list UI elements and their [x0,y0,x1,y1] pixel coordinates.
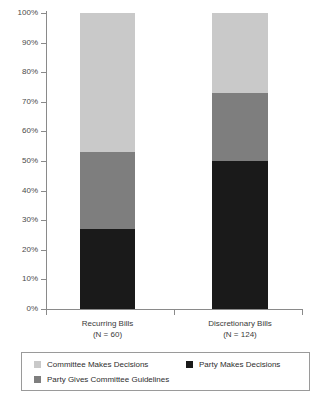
x-axis-label-name: Recurring Bills [82,319,134,328]
y-axis-tick-label: 10% [22,275,38,283]
x-axis-label-sample-size: (N = 60) [48,329,168,340]
legend-label: Party Gives Committee Guidelines [47,375,169,384]
y-axis-tick-label: 90% [22,39,38,47]
bar-segment [212,13,268,93]
bar-segment [212,93,268,161]
x-axis-label: Recurring Bills(N = 60) [48,318,168,340]
bar-segment [80,13,135,152]
y-axis-tick-label: 70% [22,98,38,106]
y-axis-tick-label: 50% [22,157,38,165]
stacked-bar-chart: 0%10%20%30%40%50%60%70%80%90%100% Recurr… [0,0,317,394]
x-axis-label: Discretionary Bills(N = 124) [180,318,300,340]
x-axis-tick [302,310,303,315]
bar-segment [80,152,135,229]
legend-swatch-icon [186,361,193,368]
legend-swatch-icon [34,376,41,383]
x-axis-label-name: Discretionary Bills [208,319,272,328]
plot-area [46,13,303,309]
bar-segment [80,229,135,309]
y-axis-tick-label: 60% [22,127,38,135]
legend-item: Party Makes Decisions [186,360,280,369]
x-axis-label-sample-size: (N = 124) [180,329,300,340]
bar [80,13,135,309]
y-axis-tick-label: 20% [22,246,38,254]
y-axis-tick-label: 40% [22,187,38,195]
y-axis-tick-label: 30% [22,216,38,224]
legend-swatch-icon [34,361,41,368]
y-axis-tick-label: 80% [22,68,38,76]
y-axis-tick-label: 0% [26,305,38,313]
legend-item: Party Gives Committee Guidelines [34,375,169,384]
legend-label: Committee Makes Decisions [47,360,148,369]
legend-label: Party Makes Decisions [199,360,280,369]
y-axis-tick-label: 100% [18,9,38,17]
bar [212,13,268,309]
bar-segment [212,161,268,309]
x-axis-tick [46,310,47,315]
chart-legend: Committee Makes Decisions Party Makes De… [21,352,310,391]
legend-item: Committee Makes Decisions [34,360,148,369]
x-axis-tick [174,310,175,315]
